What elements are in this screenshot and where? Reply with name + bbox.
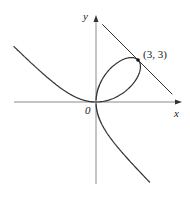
- y-axis-label: y: [82, 10, 88, 22]
- folium-diagram: y x 0 (3, 3): [0, 0, 190, 198]
- folium-curve: [14, 46, 150, 182]
- origin-label: 0: [85, 104, 91, 116]
- tangent-point: [136, 58, 140, 62]
- point-label: (3, 3): [143, 48, 167, 61]
- x-axis-label: x: [173, 107, 179, 119]
- x-axis-arrow-icon: [175, 100, 182, 105]
- y-axis-arrow-icon: [94, 15, 99, 22]
